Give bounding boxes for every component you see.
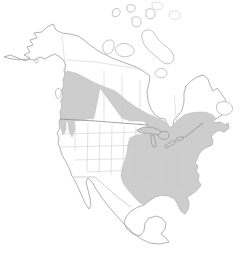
victoria-island [115,43,134,56]
vancouver-island [55,88,61,98]
arctic-island-1 [112,9,120,17]
arctic-island-2 [127,5,135,13]
north-america-map [0,0,247,257]
ellesmere-island [169,11,180,20]
devon-island [152,2,163,9]
southampton-island [155,69,167,78]
range-map-stage: North America range map [0,0,247,257]
newfoundland-island [216,102,232,115]
banks-island [103,40,114,54]
kodiak-island [35,59,38,63]
arctic-island-4 [132,17,141,27]
arctic-island-3 [146,9,155,19]
baffin-island [142,30,174,64]
